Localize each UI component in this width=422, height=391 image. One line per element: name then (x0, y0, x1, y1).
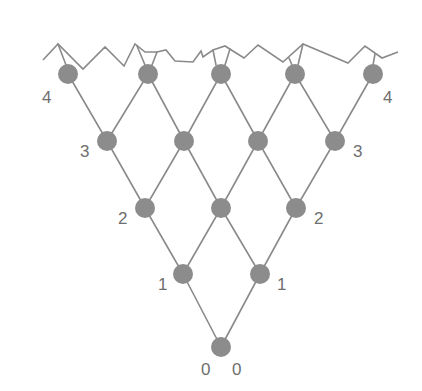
lattice-edge (335, 74, 373, 141)
lattice-edge (221, 274, 260, 347)
lattice-node (211, 64, 231, 84)
lattice-edge (148, 74, 184, 141)
lattice-nodes (58, 64, 383, 357)
lattice-edge (183, 274, 221, 347)
lattice-node (250, 264, 270, 284)
lattice-node (173, 264, 193, 284)
lattice-edge (145, 208, 183, 274)
depth-label: 4 (383, 88, 392, 107)
lattice-node (211, 198, 231, 218)
lattice-node (248, 131, 268, 151)
surface-stub-line (213, 50, 216, 65)
surface-stub-line (152, 52, 157, 65)
lattice-node (363, 64, 383, 84)
depth-label: 1 (158, 275, 167, 294)
lattice-edge (183, 208, 221, 274)
depth-label: 3 (353, 142, 362, 161)
depth-label: 0 (201, 360, 210, 379)
depth-label: 3 (80, 142, 89, 161)
lattice-node (285, 64, 305, 84)
lattice-edge (107, 74, 148, 141)
lattice-edge (107, 141, 145, 208)
surface-stub-line (289, 58, 292, 65)
lattice-edge (295, 74, 335, 141)
lattice-edge (221, 74, 258, 141)
lattice-node (135, 198, 155, 218)
lattice-edge (296, 141, 335, 208)
surface-stub-line (225, 49, 230, 65)
lattice-node (58, 64, 78, 84)
lattice-node (97, 131, 117, 151)
surface-stub-line (373, 54, 375, 65)
lattice-node (286, 198, 306, 218)
lattice-node (138, 64, 158, 84)
lattice-node (325, 131, 345, 151)
depth-label: 1 (277, 275, 286, 294)
lattice-edge (145, 141, 184, 208)
depth-label: 2 (118, 209, 127, 228)
depth-label: 4 (42, 88, 51, 107)
depth-label: 2 (314, 209, 323, 228)
lattice-edge (184, 141, 221, 208)
lattice-edge (258, 74, 295, 141)
lattice-node (174, 131, 194, 151)
lattice-edge (260, 208, 296, 274)
lattice-diagram: 0011223344 (0, 0, 422, 391)
lattice-edge (221, 208, 260, 274)
lattice-edge (258, 141, 296, 208)
depth-label: 0 (232, 360, 241, 379)
lattice-edge (184, 74, 221, 141)
lattice-edge (68, 74, 107, 141)
lattice-node (211, 337, 231, 357)
lattice-edge (221, 141, 258, 208)
